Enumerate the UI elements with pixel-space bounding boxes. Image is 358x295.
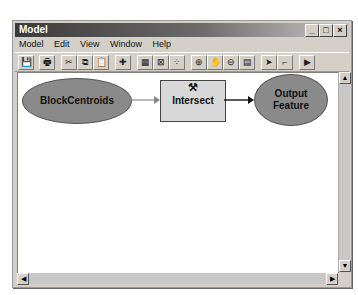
output-label-line2: Feature <box>273 100 309 112</box>
close-button[interactable]: × <box>333 24 347 37</box>
menu-view[interactable]: View <box>76 38 103 50</box>
menu-help[interactable]: Help <box>148 38 175 50</box>
horizontal-scrollbar[interactable]: ◀ ▶ <box>17 273 338 284</box>
cut-icon[interactable]: ✂ <box>61 55 77 70</box>
input-connector-arrow <box>130 95 160 105</box>
scroll-left-button[interactable]: ◀ <box>17 273 29 285</box>
scroll-down-button[interactable]: ▼ <box>339 260 351 272</box>
zoom-out-icon[interactable]: ⊖ <box>223 55 239 70</box>
model-canvas[interactable]: BlockCentroids ⚒ Intersect Output Featur… <box>17 72 339 274</box>
save-icon[interactable]: 💾 <box>18 55 34 70</box>
menu-bar: Model Edit View Window Help <box>15 38 349 51</box>
zoom-in-icon[interactable]: ⊕ <box>191 55 207 70</box>
menu-window[interactable]: Window <box>106 38 146 50</box>
input-data-ellipse[interactable]: BlockCentroids <box>22 78 132 124</box>
pan-icon[interactable]: ✋ <box>207 55 223 70</box>
window-title: Model <box>19 24 48 35</box>
menu-edit[interactable]: Edit <box>50 38 74 50</box>
output-connector-arrow <box>224 95 254 105</box>
title-bar[interactable]: Model _ □ × <box>15 23 349 37</box>
output-feature-ellipse[interactable]: Output Feature <box>254 74 328 126</box>
add-data-icon[interactable]: ✚ <box>115 55 131 70</box>
cropped-document-text <box>10 0 350 4</box>
minimize-button[interactable]: _ <box>305 24 319 37</box>
menu-model[interactable]: Model <box>15 38 48 50</box>
select-icon[interactable]: ➤ <box>261 55 277 70</box>
model-window: Model _ □ × Model Edit View Window Help … <box>12 20 352 288</box>
properties-icon[interactable]: ▤ <box>239 55 255 70</box>
toolbar: 💾 🖶 ✂ ⧉ 📋 ✚ ▦ ⊠ ⁘ ⊕ ✋ ⊖ ▤ ➤ ⌐ ▶ <box>15 52 349 72</box>
tool-label: Intersect <box>161 95 225 106</box>
scroll-up-button[interactable]: ▲ <box>339 72 351 84</box>
connect-icon[interactable]: ⌐ <box>277 55 293 70</box>
output-label-line1: Output <box>275 88 308 100</box>
print-icon[interactable]: 🖶 <box>39 55 55 70</box>
resize-grip[interactable] <box>338 273 349 284</box>
paste-icon[interactable]: 📋 <box>93 55 109 70</box>
input-label: BlockCentroids <box>40 95 114 107</box>
maximize-button[interactable]: □ <box>319 24 333 37</box>
run-icon[interactable]: ▶ <box>299 55 315 70</box>
hammer-icon: ⚒ <box>161 81 225 95</box>
vertical-scrollbar[interactable]: ▲ ▼ <box>338 72 350 272</box>
copy-icon[interactable]: ⧉ <box>77 55 93 70</box>
grid-icon[interactable]: ⁘ <box>169 55 185 70</box>
fit-to-window-icon[interactable]: ⊠ <box>153 55 169 70</box>
scroll-right-button[interactable]: ▶ <box>326 273 338 285</box>
intersect-tool-box[interactable]: ⚒ Intersect <box>160 80 226 122</box>
full-extent-icon[interactable]: ▦ <box>137 55 153 70</box>
